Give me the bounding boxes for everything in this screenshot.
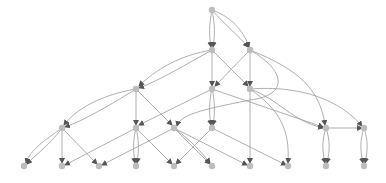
edge-arrow [64,89,136,125]
graph-node-n7 [133,125,139,131]
graph-node-n5 [247,86,253,92]
graph-node-n2 [247,47,253,53]
edge-arrow [27,128,62,164]
edge-arrow [102,128,174,165]
graph-node-n16 [171,163,177,169]
graph-node-n21 [361,163,367,169]
edge-arrow [326,128,329,163]
edge-arrow [212,89,214,125]
graph-node-n1 [209,47,215,53]
graph-node-n18 [247,163,253,169]
edge-arrow [62,128,97,164]
edge-arrow [212,128,286,165]
edge-arrow [210,89,212,125]
edge-arrow [250,89,288,163]
edge-arrow [136,89,172,125]
graph-node-n13 [59,163,65,169]
edge-arrow [65,128,136,165]
edge-arrow [139,89,212,125]
edge-arrow [65,89,136,127]
edge-arrow [361,128,364,163]
graph-node-n11 [361,125,367,131]
graph-node-n19 [285,163,291,169]
edge-arrow [136,128,138,163]
edge-arrow [136,128,172,164]
edge-arrow [212,10,214,47]
graph-node-n17 [209,163,215,169]
edge-arrow [212,10,248,47]
graph-node-n12 [21,163,27,169]
graph-node-n6 [59,125,65,131]
graph-node-n15 [133,163,139,169]
graph-node-n8 [171,125,177,131]
graph-node-n3 [133,86,139,92]
graph-node-n0 [209,7,215,13]
edge-arrow [212,89,323,127]
graph-node-n20 [323,163,329,169]
edge-arrow [139,50,212,88]
graph-node-n4 [209,86,215,92]
edge-arrow [139,50,212,86]
edge-arrow [215,50,250,86]
edge-layer [26,10,367,165]
edge-arrow [134,128,136,163]
edge-arrow [364,128,367,163]
edge-arrow [174,128,210,164]
graph-node-n10 [323,125,329,131]
edge-arrow [174,128,247,165]
edge-arrow [210,10,212,47]
edge-arrow [250,88,362,126]
edge-arrow [26,128,62,163]
edge-arrow [323,128,326,163]
directed-graph [0,0,386,183]
graph-node-n14 [96,163,102,169]
edge-arrow [250,50,325,125]
edge-arrow [212,50,248,86]
graph-node-n9 [209,125,215,131]
